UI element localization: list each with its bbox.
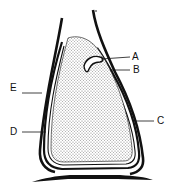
label-b: B (133, 64, 140, 75)
label-d: D (10, 126, 17, 137)
leader-line-a (101, 57, 130, 59)
label-c: C (157, 115, 164, 126)
tip-mark (95, 10, 97, 12)
label-e: E (10, 82, 17, 93)
stippled-interior (51, 37, 132, 162)
diagram-canvas: A B C D E (0, 0, 176, 190)
base-stalk (32, 175, 153, 182)
label-a: A (132, 51, 139, 62)
